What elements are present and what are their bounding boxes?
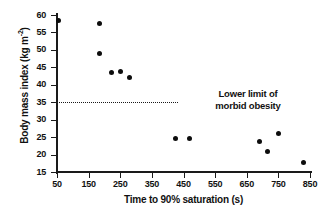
x-axis-tick xyxy=(310,173,311,178)
y-axis-tick-label: 30 xyxy=(20,115,46,124)
x-axis-tick xyxy=(57,173,58,178)
x-axis-tick-label: 750 xyxy=(263,180,293,189)
x-axis-tick-label: 50 xyxy=(42,180,72,189)
data-point xyxy=(118,69,123,74)
y-axis-tick-label: 35 xyxy=(20,98,46,107)
data-point xyxy=(97,51,102,56)
y-axis-tick xyxy=(51,155,56,156)
y-axis-tick-label: 55 xyxy=(20,28,46,37)
plot-area xyxy=(57,15,310,172)
y-axis-tick xyxy=(51,172,56,173)
y-axis-tick-label: 25 xyxy=(20,133,46,142)
x-axis-tick xyxy=(152,173,153,178)
x-axis-tick-label: 250 xyxy=(105,180,135,189)
x-axis-tick xyxy=(120,173,121,178)
data-point xyxy=(56,18,61,23)
x-axis-tick xyxy=(247,173,248,178)
data-point xyxy=(127,75,132,80)
y-axis-tick xyxy=(51,15,56,16)
data-point xyxy=(301,160,306,165)
y-axis-tick-label: 40 xyxy=(20,80,46,89)
y-axis-tick xyxy=(51,67,56,68)
data-point xyxy=(97,21,102,26)
x-axis-tick xyxy=(215,173,216,178)
data-point xyxy=(265,149,270,154)
y-axis-tick xyxy=(51,102,56,103)
y-axis-tick-label: 45 xyxy=(20,63,46,72)
scatter-chart: Body mass index (kg m-2) Time to 90% sat… xyxy=(0,0,333,217)
x-axis-tick xyxy=(184,173,185,178)
y-axis-tick-label: 60 xyxy=(20,11,46,20)
y-axis-tick xyxy=(51,50,56,51)
y-axis-tick xyxy=(51,120,56,121)
y-axis-tick-label: 50 xyxy=(20,45,46,54)
y-axis-tick xyxy=(51,85,56,86)
y-axis-tick-label: 20 xyxy=(20,150,46,159)
data-point xyxy=(109,70,114,75)
data-point xyxy=(276,131,281,136)
x-axis-tick-label: 850 xyxy=(295,180,325,189)
x-axis-tick-label: 550 xyxy=(200,180,230,189)
x-axis-tick-label: 350 xyxy=(137,180,167,189)
x-axis-title: Time to 90% saturation (s) xyxy=(57,194,310,205)
x-axis-tick xyxy=(89,173,90,178)
data-point xyxy=(257,139,262,144)
x-axis-tick xyxy=(278,173,279,178)
x-axis-tick-label: 150 xyxy=(74,180,104,189)
y-axis-tick-label: 15 xyxy=(20,168,46,177)
y-axis-tick xyxy=(51,137,56,138)
x-axis-tick-label: 650 xyxy=(232,180,262,189)
data-point xyxy=(187,136,192,141)
y-axis-tick xyxy=(51,32,56,33)
x-axis-tick-label: 450 xyxy=(169,180,199,189)
data-point xyxy=(173,136,178,141)
